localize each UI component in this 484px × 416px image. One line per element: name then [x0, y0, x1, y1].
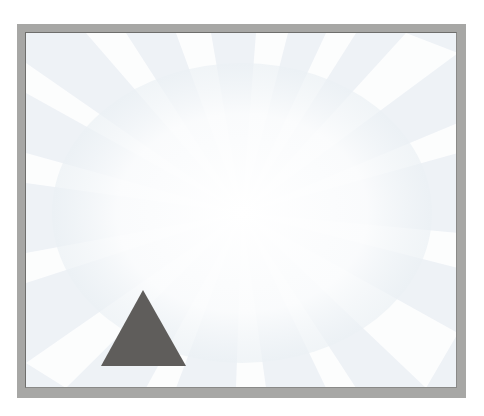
- triangle-icon: [101, 290, 186, 366]
- picture-frame: [17, 24, 466, 398]
- textured-canvas: [25, 32, 457, 388]
- cropped-caption-text: [150, 0, 350, 2]
- triangle-shape: [26, 33, 457, 388]
